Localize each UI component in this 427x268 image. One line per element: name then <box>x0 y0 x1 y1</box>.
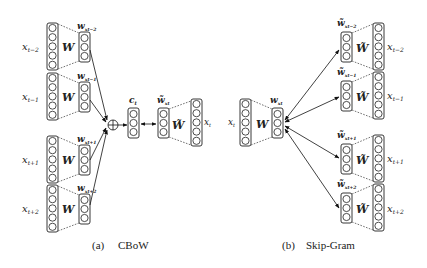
input-label-x-tm1: xt−1 <box>22 91 39 103</box>
sg-output-label-tp1: xt+1 <box>387 153 404 165</box>
caption-skipgram: Skip-Gram <box>306 239 355 251</box>
input-label-x-tm2: xt−2 <box>22 41 39 53</box>
caption-tag-a: (a) <box>92 239 105 252</box>
sg-vec-label-tm1: w̃xt−1 <box>337 67 356 78</box>
caption-tag-b: (b) <box>282 239 295 252</box>
sg-output-group-tp1: w̃xt+1 W̃ xt+1 <box>337 130 404 182</box>
sg-vec-label-tp1: w̃xt+1 <box>337 130 356 141</box>
sg-output-label-tp2: xt+2 <box>387 203 404 215</box>
sg-output-label-tm1: xt−1 <box>387 90 404 102</box>
cbow-panel: xt−2 W wxt−2 xt−1 W wxt−1 xt+1 W wxt <box>22 21 212 252</box>
output-one-hot-xt: xt <box>191 99 212 146</box>
sg-matrix-Wt-label: W̃ <box>356 42 370 55</box>
context-label: ct <box>129 95 137 106</box>
skipgram-panel: xt W wxt w̃xt−2 W̃ xt−2 <box>228 18 404 252</box>
matrix-W-label: W <box>62 91 76 104</box>
sg-matrix-W-label: W <box>256 118 270 131</box>
sg-matrix-Wt-label: W̃ <box>356 203 370 216</box>
vec-label-w-tp1: wxt+1 <box>77 134 96 145</box>
sg-output-label-tm2: xt−2 <box>387 41 404 53</box>
sg-vec-label-tp2: w̃xt+2 <box>337 179 356 190</box>
cbow-input-group-tm2: xt−2 W wxt−2 <box>22 21 96 70</box>
sg-matrix-Wt-label: W̃ <box>356 154 370 167</box>
sg-output-group-tp2: w̃xt+2 W̃ xt+2 <box>337 179 404 231</box>
matrix-Wt-label: W̃ <box>172 119 186 132</box>
input-label-x-tp1: xt+1 <box>22 154 39 166</box>
input-label-x-tp2: xt+2 <box>22 203 39 215</box>
output-label-xt: xt <box>204 117 212 128</box>
matrix-W-label: W <box>62 203 76 216</box>
sg-output-group-tm1: w̃xt−1 W̃ xt−1 <box>337 67 404 119</box>
sg-arrow-tp2 <box>285 129 339 208</box>
sg-matrix-Wt-label: W̃ <box>356 91 370 104</box>
vec-label-w-tm2: wxt−2 <box>77 21 96 32</box>
sg-input-xt: xt <box>228 99 251 146</box>
sg-input-label: xt <box>228 117 236 128</box>
arrow-to-sum <box>90 50 107 120</box>
matrix-W-label: W <box>62 154 76 167</box>
output-embedding-vector: w̃xt <box>157 95 170 138</box>
sg-center-label: wxt <box>270 95 283 106</box>
matrix-W-label: W <box>62 41 76 54</box>
caption-cbow: CBoW <box>118 239 149 251</box>
sum-node <box>108 120 118 130</box>
word2vec-diagram: xt−2 W wxt−2 xt−1 W wxt−1 xt+1 W wxt <box>0 0 427 268</box>
sg-center-embedding: wxt <box>270 95 283 138</box>
sg-arrow-tp1 <box>285 126 339 158</box>
sg-output-group-tm2: w̃xt−2 W̃ xt−2 <box>337 18 404 70</box>
output-vec-label: w̃xt <box>157 95 170 106</box>
context-vector-ct: ct <box>128 95 139 138</box>
arrow-to-sum <box>90 100 106 122</box>
cbow-input-group-tm1: xt−1 W wxt−1 <box>22 71 96 120</box>
cbow-input-group-tp1: xt+1 W wxt+1 <box>22 134 96 183</box>
vec-label-w-tm1: wxt−1 <box>77 71 96 82</box>
cbow-input-group-tp2: xt+2 W wxt+2 <box>22 183 96 232</box>
sg-vec-label-tm2: w̃xt−2 <box>337 18 356 29</box>
